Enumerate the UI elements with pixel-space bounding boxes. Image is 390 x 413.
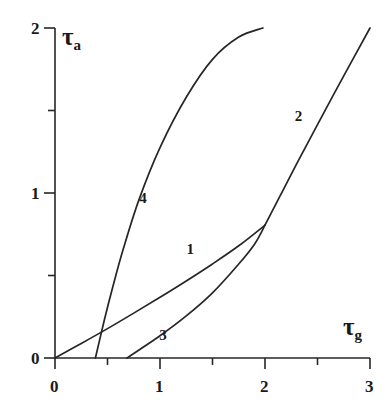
y-tick-label-0: 0 [31,350,40,367]
x-axis-title-subscript: g [355,327,363,343]
y-axis-title-subscript: a [74,37,82,53]
x-tick-label-0: 0 [50,378,59,395]
curve-label-4: 4 [139,191,147,206]
chart-background [0,0,390,413]
y-axis-title: τa [62,24,81,49]
x-axis-title-symbol: τ [343,313,355,340]
curve-label-2: 2 [295,109,303,124]
y-axis-title-symbol: τ [62,23,74,50]
x-axis-title: τg [343,314,362,339]
y-tick-label-2: 2 [31,20,40,37]
x-tick-label-3: 3 [365,378,374,395]
curve-label-3: 3 [159,328,167,343]
x-tick-label-2: 2 [260,378,269,395]
y-tick-label-1: 1 [31,185,40,202]
chart-figure [0,0,390,413]
x-tick-label-1: 1 [155,378,164,395]
curve-label-1: 1 [187,242,195,257]
